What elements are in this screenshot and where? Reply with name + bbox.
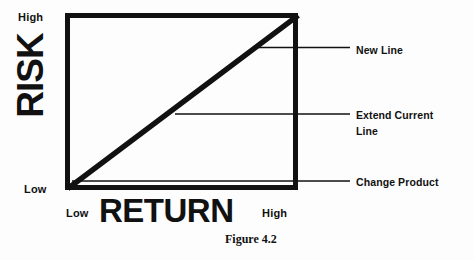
y-axis-title: RISK: [12, 16, 49, 136]
figure-caption: Figure 4.2: [225, 232, 277, 247]
callout-label-extend-current-line: Extend Current Line: [356, 107, 466, 139]
x-axis-low-label: Low: [66, 207, 89, 219]
callout-label-change-product: Change Product: [356, 174, 439, 190]
y-axis-low-label: Low: [24, 183, 47, 195]
x-axis-title: RETURN: [99, 194, 234, 227]
callout-label-new-line: New Line: [356, 42, 403, 58]
plot-frame: [65, 13, 298, 190]
x-axis-high-label: High: [262, 207, 287, 219]
figure-4-2-risk-return-diagram: High Low Low High RISK RETURN New Line E…: [0, 0, 474, 260]
